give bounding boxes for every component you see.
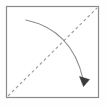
- diagram-canvas: [0, 0, 106, 107]
- figure-container: [0, 0, 106, 107]
